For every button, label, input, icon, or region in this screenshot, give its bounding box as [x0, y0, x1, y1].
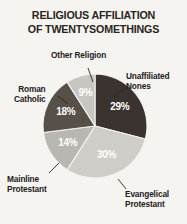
slice-label-other-religion: Other Religion	[51, 51, 106, 61]
slice-label-unaffiliated-nones-line-2: Nones	[126, 82, 169, 92]
pie-value-evangelical-protestant: 30%	[97, 149, 117, 160]
chart-title-line-1: RELIGIOUS AFFILIATION	[7, 9, 181, 23]
chart-figure: RELIGIOUS AFFILIATION OF TWENTYSOMETHING…	[0, 0, 187, 224]
pie-value-unaffiliated-nones: 29%	[110, 101, 130, 112]
slice-label-roman-catholic-line-2: Catholic	[14, 95, 46, 105]
leader-line-evangelical	[118, 179, 126, 189]
pie-value-mainline-protestant: 14%	[58, 137, 78, 148]
slice-label-mainline-protestant-line-2: Protestant	[7, 185, 47, 195]
pie-value-roman-catholic: 18%	[56, 106, 76, 117]
chart-title-line-2: OF TWENTYSOMETHINGS	[7, 23, 181, 37]
chart-title: RELIGIOUS AFFILIATION OF TWENTYSOMETHING…	[7, 9, 181, 36]
slice-label-roman-catholic: Roman Catholic	[14, 85, 46, 104]
slice-label-unaffiliated-nones: Unaffiliated Nones	[126, 72, 169, 91]
slice-label-other-religion-line-1: Other Religion	[51, 51, 106, 61]
slice-label-evangelical-protestant-line-2: Protestant	[125, 200, 169, 210]
slice-label-mainline-protestant: Mainline Protestant	[7, 175, 47, 194]
pie-value-other-religion: 9%	[78, 87, 92, 98]
slice-label-evangelical-protestant: Evangelical Protestant	[125, 190, 169, 209]
